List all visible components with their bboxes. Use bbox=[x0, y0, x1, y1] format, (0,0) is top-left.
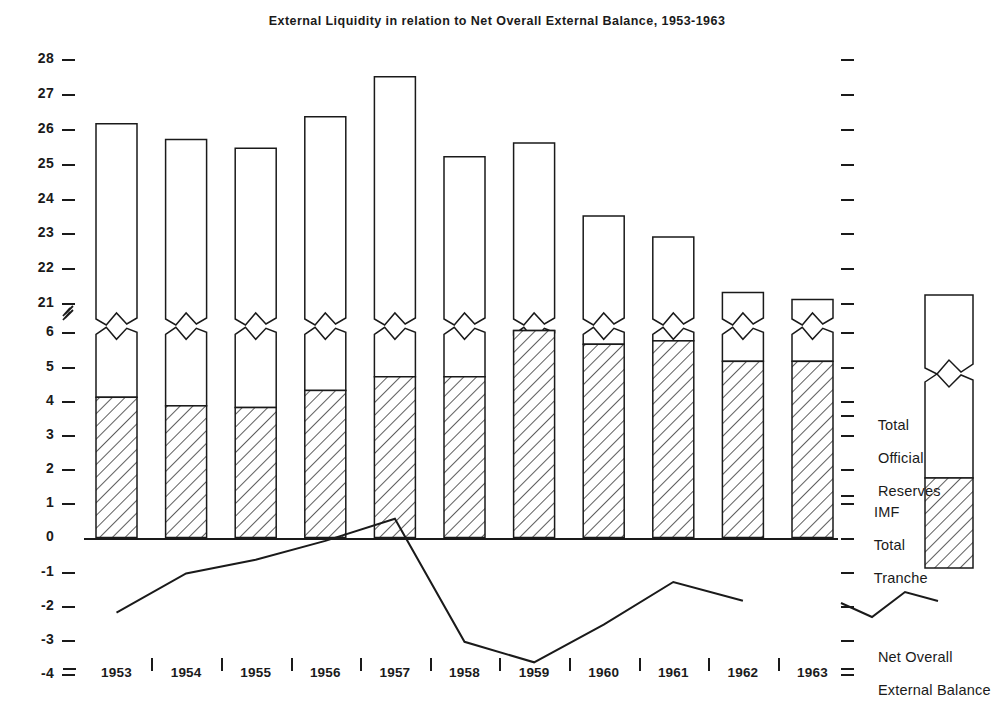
y-axis-tick-label: 24 bbox=[18, 190, 54, 206]
y-axis-tick-label: 3 bbox=[18, 426, 54, 442]
legend-reserves-line2: Official bbox=[878, 450, 924, 466]
y-axis-tick-label: 5 bbox=[18, 358, 54, 374]
legend-reserves-line1: Total bbox=[878, 417, 910, 433]
bar-imf-total-tranche-segment bbox=[444, 377, 485, 538]
y-axis-tick-mark-right bbox=[841, 674, 854, 676]
y-axis-tick-mark bbox=[62, 572, 75, 574]
y-axis-tick-mark bbox=[62, 129, 75, 131]
x-axis-tick-label: 1957 bbox=[368, 665, 422, 680]
bar-upper-segment bbox=[722, 293, 763, 325]
x-axis-divider bbox=[360, 658, 362, 671]
x-axis-tick-label: 1956 bbox=[298, 665, 352, 680]
bar-total-official-reserves-segment bbox=[166, 327, 207, 406]
x-axis-divider bbox=[499, 658, 501, 671]
zero-axis-line bbox=[84, 538, 838, 540]
bar-total-official-reserves-segment bbox=[722, 327, 763, 361]
y-axis-tick-mark bbox=[62, 367, 75, 369]
y-axis-tick-mark bbox=[62, 164, 75, 166]
x-axis-tick-label: 1962 bbox=[716, 665, 770, 680]
bar-upper-segment bbox=[444, 157, 485, 325]
y-axis-tick-label: 1 bbox=[18, 494, 54, 510]
bar-total-official-reserves-segment bbox=[96, 327, 137, 397]
legend-balance-line2: External Balance bbox=[878, 682, 991, 698]
y-axis-tick-mark-right bbox=[841, 606, 854, 608]
legend-imf-line2: Total bbox=[874, 537, 906, 553]
x-axis-tick-label: 1958 bbox=[438, 665, 492, 680]
x-axis-tick-label: 1959 bbox=[507, 665, 561, 680]
y-axis-tick-mark-right bbox=[841, 94, 854, 96]
y-axis-tick-mark-right bbox=[841, 129, 854, 131]
chart-plot-area bbox=[0, 0, 994, 723]
x-axis-divider bbox=[151, 658, 153, 671]
y-axis-tick-label: 0 bbox=[18, 528, 54, 544]
balance-line-layer bbox=[117, 519, 743, 663]
y-axis-tick-mark-right bbox=[841, 59, 854, 61]
bar-total-official-reserves-segment bbox=[374, 327, 415, 376]
legend-bar-upper-segment bbox=[925, 295, 973, 374]
bar-total-official-reserves-segment bbox=[444, 327, 485, 376]
legend-label-imf: IMF Total Tranche bbox=[857, 487, 928, 603]
x-axis-end-dash bbox=[841, 668, 854, 670]
y-axis-tick-mark-right bbox=[841, 469, 854, 471]
x-axis-tick-label: 1963 bbox=[786, 665, 840, 680]
bar-imf-total-tranche-segment bbox=[583, 344, 624, 537]
x-axis-tick-label: 1960 bbox=[577, 665, 631, 680]
y-axis-tick-label: -1 bbox=[18, 563, 54, 579]
bar-imf-total-tranche-segment bbox=[792, 361, 833, 537]
x-axis-divider bbox=[430, 658, 432, 671]
y-axis-tick-label: 26 bbox=[18, 120, 54, 136]
bar-imf-total-tranche-segment bbox=[305, 390, 346, 537]
legend-dash-balance bbox=[841, 640, 854, 642]
legend-label-balance: Net Overall External Balance bbox=[861, 632, 991, 715]
bar-upper-segment bbox=[374, 77, 415, 325]
y-axis-tick-label: 2 bbox=[18, 460, 54, 476]
bar-imf-total-tranche-segment bbox=[722, 361, 763, 537]
y-axis-tick-mark-right bbox=[841, 233, 854, 235]
y-axis-tick-label: -2 bbox=[18, 597, 54, 613]
bar-imf-total-tranche-segment bbox=[166, 406, 207, 538]
legend-balance-line1: Net Overall bbox=[878, 649, 953, 665]
x-axis-divider bbox=[639, 658, 641, 671]
y-axis-tick-mark bbox=[62, 606, 75, 608]
y-axis-tick-mark bbox=[62, 332, 75, 334]
bar-upper-segment bbox=[583, 216, 624, 325]
x-axis-divider bbox=[778, 658, 780, 671]
bar-total-official-reserves-segment bbox=[583, 327, 624, 344]
bar-upper-segment bbox=[792, 300, 833, 325]
net-overall-external-balance-line bbox=[117, 519, 743, 663]
bar-upper-segment bbox=[653, 237, 694, 325]
axis-break-squiggle-icon bbox=[61, 303, 83, 325]
y-axis-tick-mark bbox=[62, 233, 75, 235]
y-axis-tick-label: 6 bbox=[18, 323, 54, 339]
x-axis-tick-label: 1961 bbox=[646, 665, 700, 680]
y-axis-tick-mark-right bbox=[841, 401, 854, 403]
y-axis-tick-mark bbox=[62, 401, 75, 403]
bar-imf-total-tranche-segment bbox=[653, 341, 694, 538]
bar-upper-segment bbox=[235, 148, 276, 325]
y-axis-tick-mark-right bbox=[841, 303, 854, 305]
y-axis-tick-mark bbox=[62, 268, 75, 270]
y-axis-tick-mark-right bbox=[841, 199, 854, 201]
y-axis-tick-mark-right bbox=[841, 268, 854, 270]
legend-imf-line1: IMF bbox=[874, 504, 900, 520]
y-axis-tick-mark-right bbox=[841, 503, 854, 505]
bar-total-official-reserves-segment bbox=[305, 327, 346, 390]
y-axis-tick-label: 21 bbox=[18, 294, 54, 310]
bar-total-official-reserves-segment bbox=[235, 327, 276, 407]
x-axis-tick-label: 1953 bbox=[90, 665, 144, 680]
legend-dash-reserves bbox=[841, 415, 854, 417]
bar-upper-segment bbox=[305, 117, 346, 325]
x-axis-end-dash bbox=[63, 668, 76, 670]
x-axis-tick-label: 1955 bbox=[229, 665, 283, 680]
bar-upper-segment bbox=[96, 124, 137, 325]
y-axis-tick-label: -4 bbox=[18, 665, 54, 681]
y-axis-tick-label: 4 bbox=[18, 392, 54, 408]
y-axis-tick-mark-right bbox=[841, 538, 854, 540]
bar-upper-segment bbox=[514, 143, 555, 325]
y-axis-tick-mark bbox=[62, 435, 75, 437]
x-axis-tick-label: 1954 bbox=[159, 665, 213, 680]
y-axis-tick-label: 22 bbox=[18, 259, 54, 275]
bar-imf-total-tranche-segment bbox=[374, 377, 415, 538]
y-axis-tick-label: 25 bbox=[18, 155, 54, 171]
y-axis-tick-mark bbox=[62, 94, 75, 96]
